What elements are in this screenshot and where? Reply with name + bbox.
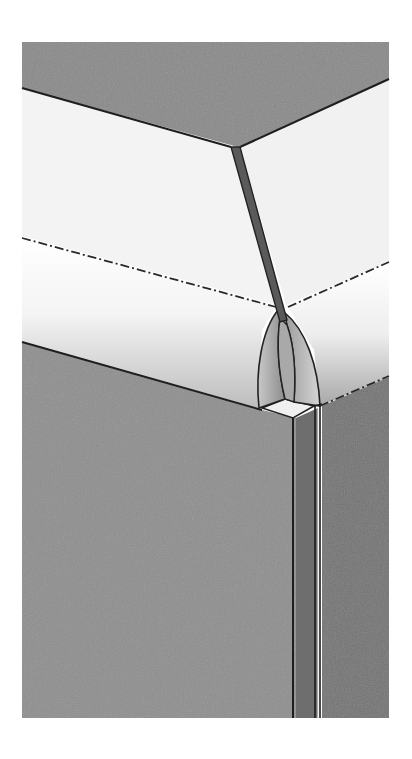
front-face-right bbox=[322, 377, 389, 718]
countertop-corner-diagram bbox=[0, 0, 412, 759]
cad-render bbox=[0, 0, 412, 759]
